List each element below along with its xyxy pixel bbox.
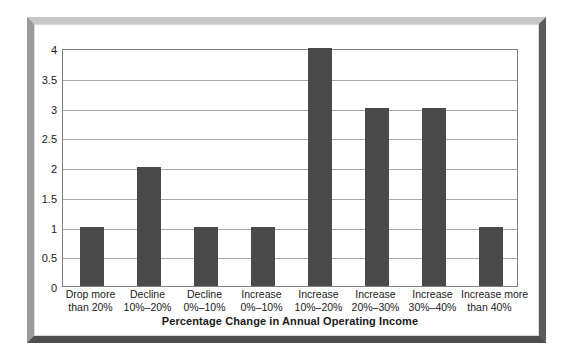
figure-canvas: 00.511.522.533.54 Drop morethan 20%Decli… xyxy=(34,24,539,336)
bar-slot xyxy=(177,50,234,286)
figure-frame: 00.511.522.533.54 Drop morethan 20%Decli… xyxy=(27,17,546,343)
y-axis-tick-label: 4 xyxy=(51,45,57,56)
bar-slot xyxy=(462,50,519,286)
bar[interactable] xyxy=(308,48,332,286)
x-axis-category-label: Increase morethan 40% xyxy=(461,288,518,313)
plot-area: 00.511.522.533.54 xyxy=(62,49,518,287)
y-axis-tick-label: 1.5 xyxy=(42,193,57,204)
y-axis-tick-label: 3.5 xyxy=(42,74,57,85)
bar-slot xyxy=(234,50,291,286)
x-axis-category-label: Increase30%–40% xyxy=(404,288,461,313)
y-axis-tick-label: 0.5 xyxy=(42,253,57,264)
bar-series xyxy=(63,50,517,286)
bar[interactable] xyxy=(251,227,275,287)
bar[interactable] xyxy=(137,167,161,286)
bar[interactable] xyxy=(194,227,218,287)
x-axis-category-label: Increase0%–10% xyxy=(233,288,290,313)
bar[interactable] xyxy=(422,108,446,287)
y-axis-tick-label: 0 xyxy=(51,283,57,294)
y-axis-tick-label: 2 xyxy=(51,164,57,175)
bar-slot xyxy=(120,50,177,286)
x-axis-category-label: Increase10%–20% xyxy=(290,288,347,313)
bar-slot xyxy=(291,50,348,286)
bar-slot xyxy=(63,50,120,286)
x-axis-category-label: Decline0%–10% xyxy=(176,288,233,313)
bar[interactable] xyxy=(479,227,503,287)
bar[interactable] xyxy=(365,108,389,287)
bar-slot xyxy=(405,50,462,286)
bar-slot xyxy=(348,50,405,286)
x-axis-category-label: Increase20%–30% xyxy=(347,288,404,313)
y-axis-tick-label: 1 xyxy=(51,223,57,234)
x-axis-category-label: Decline10%–20% xyxy=(119,288,176,313)
y-axis-tick-label: 3 xyxy=(51,104,57,115)
x-axis-category-labels: Drop morethan 20%Decline10%–20%Decline0%… xyxy=(62,288,518,316)
bar[interactable] xyxy=(80,227,104,287)
x-axis-title: Percentage Change in Annual Operating In… xyxy=(62,315,518,327)
x-axis-category-label: Drop morethan 20% xyxy=(62,288,119,313)
y-axis-tick-label: 2.5 xyxy=(42,134,57,145)
